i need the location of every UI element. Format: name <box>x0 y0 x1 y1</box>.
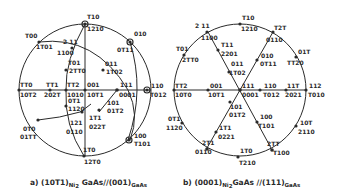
label: 101 <box>230 103 243 110</box>
label: 10T <box>300 119 313 126</box>
label: 0110 <box>66 128 83 135</box>
label: 0001 <box>119 91 136 98</box>
label: 1T0 <box>83 146 95 153</box>
label: T101 <box>258 122 275 129</box>
label: 100 <box>134 132 147 139</box>
label: 0T11 <box>117 46 134 53</box>
label: 010 <box>261 52 274 59</box>
label: 1T02 <box>229 69 246 76</box>
label: 10T1 <box>208 91 225 98</box>
label: 011 <box>231 60 244 67</box>
label: 12T0 <box>84 158 101 165</box>
label: 10T2 <box>20 91 37 98</box>
label: T012 <box>150 91 167 98</box>
panel-b-pole-110 <box>258 88 261 91</box>
panel-a-caption: a) (10T1)Ni2 GaAs//(001)GaAs <box>30 178 148 189</box>
label: 01T2 <box>229 111 246 118</box>
label: 0T1 <box>168 115 180 122</box>
label: 2 11 <box>63 38 78 45</box>
label: 110 <box>264 82 277 89</box>
label: 1120 <box>166 124 183 131</box>
label: 1210 <box>241 25 258 32</box>
label: T012 <box>263 91 280 98</box>
label: 1T1 <box>89 114 101 121</box>
panel-a-pole-0t0 <box>36 118 39 121</box>
label: 2201 <box>221 50 238 57</box>
label: 022T <box>89 123 107 130</box>
label: 111 <box>120 81 133 88</box>
label: 101 <box>107 99 120 106</box>
label: TT2 <box>175 82 188 89</box>
label: 001 <box>210 82 223 89</box>
label: T101 <box>134 140 151 147</box>
panel-a-pole-101 <box>64 68 67 71</box>
label: 01T2 <box>107 107 124 114</box>
panel-b-pole-010 <box>255 58 258 61</box>
label: TT2 <box>67 81 80 88</box>
label: T010 <box>308 91 325 98</box>
label: 0T1 <box>68 97 80 104</box>
label: 110 <box>151 82 164 89</box>
label: 0110 <box>195 148 212 155</box>
label: 112 <box>309 82 322 89</box>
label: 111 <box>242 82 255 89</box>
label: 1210 <box>87 25 104 32</box>
label: 202T <box>44 91 62 98</box>
label: T2T <box>274 24 287 31</box>
label: TT20 <box>287 59 304 66</box>
label: 2TT0 <box>182 56 199 63</box>
label: 10T0 <box>175 91 192 98</box>
label: T11 <box>221 41 233 48</box>
label: TT0 <box>20 81 33 88</box>
label: T00 <box>25 32 37 39</box>
label: T01 <box>176 45 188 52</box>
label: T01 <box>68 59 80 66</box>
panel-a-pole-101r <box>97 108 100 111</box>
label: 10T1 <box>87 91 104 98</box>
label: 2110 <box>298 128 315 135</box>
label: T100 <box>273 149 290 156</box>
label: 010 <box>134 30 147 37</box>
panel-b-caption: b) (0001)Ni2GaAs //(111)GaAs <box>183 178 301 189</box>
label: 2021 <box>285 91 302 98</box>
label: 121 <box>70 119 83 126</box>
label: T10 <box>87 13 99 20</box>
label: 100 <box>260 113 273 120</box>
label: 1T02 <box>106 68 123 75</box>
label: 1T0 <box>240 147 252 154</box>
panel-b: T10 1210 2 11 1100 T2T 0110 T01 2TT0 T11… <box>166 14 325 189</box>
label: 001 <box>87 81 100 88</box>
label: 2TT <box>267 140 280 147</box>
label: 0221 <box>218 133 235 140</box>
label: 1100 <box>201 34 218 41</box>
label: 0T11 <box>260 60 277 67</box>
label: TT1 <box>46 81 59 88</box>
label: 01TT <box>20 133 38 140</box>
panel-a-pole-011 <box>101 68 104 71</box>
label: 1120 <box>68 105 85 112</box>
label: 1100 <box>57 49 74 56</box>
label: 2TT0 <box>69 67 86 74</box>
label: 11T <box>287 82 300 89</box>
panel-a: T10 1210 T00 1T01 2 11 1100 010 0T11 T01… <box>17 13 166 189</box>
label: 2 11 <box>195 22 210 29</box>
label: 1T01 <box>36 43 53 50</box>
label: T10 <box>242 14 254 21</box>
panel-b-pole-t11 <box>216 48 219 51</box>
label: 01T <box>298 48 311 55</box>
label: 0T0 <box>23 125 35 132</box>
label: 0001 <box>242 91 259 98</box>
label: 2T1 <box>202 139 214 146</box>
label: 011 <box>105 60 118 67</box>
label: T210 <box>239 159 256 166</box>
stereographic-projections: T10 1210 T00 1T01 2 11 1100 010 0T11 T01… <box>0 0 338 193</box>
label: 1T1 <box>219 124 231 131</box>
label: 0110 <box>266 36 283 43</box>
